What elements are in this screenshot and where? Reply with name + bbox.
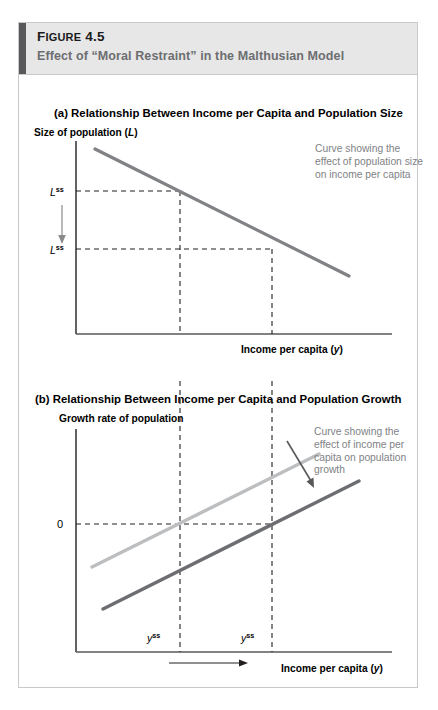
panel-b-plot [19,371,417,687]
panel-b-yss-arrow-head [239,659,248,666]
figure-title: Effect of “Moral Restraint” in the Malth… [37,49,344,63]
panel-b-curve-original [92,454,319,567]
panel-b: (b) Relationship Between Income per Capi… [19,371,417,687]
panel-a-annotation: Curve showing the effect of population s… [315,143,425,181]
panel-a-plot [19,81,417,371]
panel-b-tick-y-right: yss [241,632,254,644]
figure-header: FIGURE 4.5 Effect of “Moral Restraint” i… [19,23,417,75]
panel-b-annotation: Curve showing the effect of income per c… [314,426,414,477]
figure-number-caps: IGURE [45,31,81,43]
panel-b-tick-zero: 0 [57,518,63,530]
panel-a-curve [95,149,349,276]
panel-a: (a) Relationship Between Income per Capi… [19,81,417,371]
panel-b-curve-shifted [103,481,359,609]
panel-a-tick-L-upper: Lss [50,186,64,198]
header-accent-bar [19,23,26,74]
panel-a-tick-L-lower: Lss [50,244,64,256]
figure-number: FIGURE 4.5 [37,29,105,44]
figure-number-value: 4.5 [81,29,104,44]
figure-container: FIGURE 4.5 Effect of “Moral Restraint” i… [18,22,418,688]
panel-b-tick-y-left: yss [147,632,160,644]
